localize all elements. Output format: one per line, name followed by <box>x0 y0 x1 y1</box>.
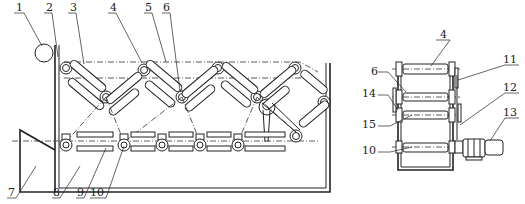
label-5: 5 <box>145 1 152 14</box>
label-6: 6 <box>163 1 170 14</box>
label-r15: 15 <box>362 118 376 131</box>
label-r6: 6 <box>371 65 378 78</box>
label-r4: 4 <box>440 28 447 41</box>
label-8: 8 <box>53 186 60 199</box>
side-bearings <box>393 62 461 153</box>
label-r12: 12 <box>503 81 517 94</box>
label-9: 9 <box>77 186 84 199</box>
label-7: 7 <box>8 186 15 199</box>
label-r13: 13 <box>503 106 517 119</box>
mechanical-drawing: 1 2 3 4 5 6 7 8 9 10 <box>0 0 525 204</box>
sensor-circle <box>35 44 53 62</box>
label-4: 4 <box>110 1 117 14</box>
label-2: 2 <box>46 1 53 14</box>
label-3: 3 <box>70 1 77 14</box>
label-10: 10 <box>90 186 104 199</box>
label-1: 1 <box>16 1 23 14</box>
label-r11: 11 <box>503 53 517 66</box>
horizontal-slats <box>77 132 285 151</box>
side-view: 4 6 14 15 10 11 12 13 <box>362 28 519 170</box>
front-view: 1 2 3 4 5 6 7 8 9 10 <box>7 1 330 199</box>
label-r10: 10 <box>362 144 376 157</box>
label-r14: 14 <box>362 87 376 100</box>
drive-motor <box>455 139 503 160</box>
